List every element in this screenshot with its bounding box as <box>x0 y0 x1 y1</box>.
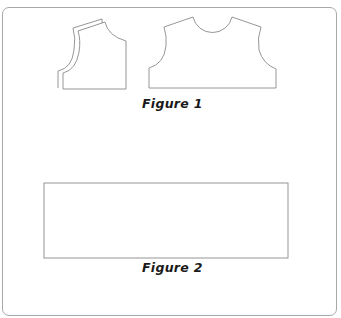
figure-2-caption: Figure 2 <box>142 260 203 275</box>
bodice-back-piece <box>149 17 276 88</box>
figure-1-caption: Figure 1 <box>142 96 203 111</box>
rectangle-piece <box>44 183 288 258</box>
bodice-front-piece <box>58 19 126 89</box>
